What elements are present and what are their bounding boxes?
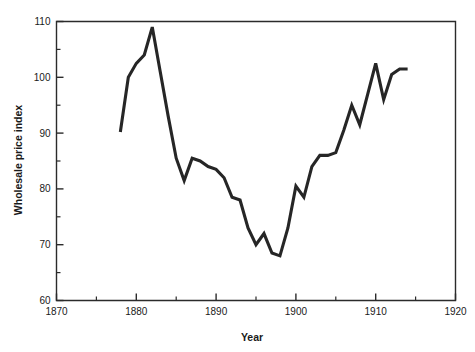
x-tick-label: 1870 xyxy=(45,306,68,317)
x-tick-label: 1880 xyxy=(125,306,148,317)
chart-container: 187018801890190019101920 60708090100110 … xyxy=(0,0,475,352)
wholesale-price-index-line-chart: 187018801890190019101920 60708090100110 … xyxy=(0,0,475,352)
x-axis-title: Year xyxy=(241,331,263,343)
x-tick-label: 1910 xyxy=(365,306,388,317)
x-tick-label: 1900 xyxy=(285,306,308,317)
y-tick-label: 90 xyxy=(39,128,51,139)
chart-background xyxy=(0,0,475,352)
y-axis-title: Wholesale price index xyxy=(12,105,24,215)
y-tick-label: 70 xyxy=(39,239,51,250)
y-tick-label: 110 xyxy=(35,16,51,27)
x-tick-label: 1920 xyxy=(444,306,467,317)
y-tick-label: 60 xyxy=(39,295,51,306)
y-tick-label: 100 xyxy=(34,72,51,83)
x-tick-label: 1890 xyxy=(205,306,228,317)
y-tick-label: 80 xyxy=(39,183,51,194)
